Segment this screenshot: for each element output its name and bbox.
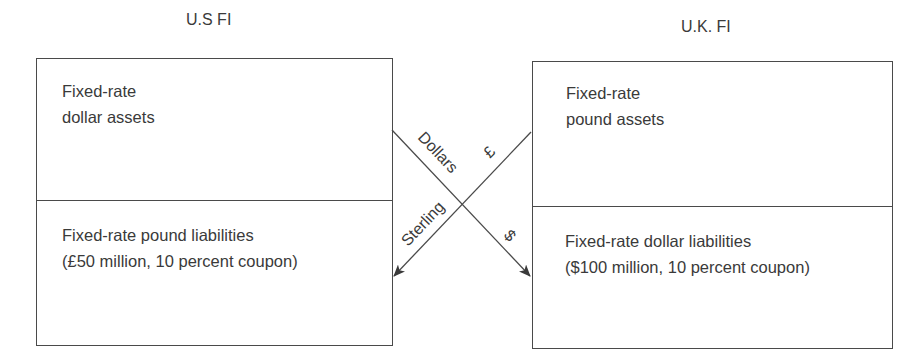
sterling-label: Sterling	[398, 198, 448, 249]
dollar-symbol-label: $	[501, 226, 520, 244]
pound-symbol-label: £	[480, 143, 499, 161]
dollar-flow-arrow	[392, 130, 530, 276]
dollars-label: Dollars	[415, 128, 462, 176]
currency-flow-arrows: Dollars $ £ Sterling	[0, 0, 921, 360]
